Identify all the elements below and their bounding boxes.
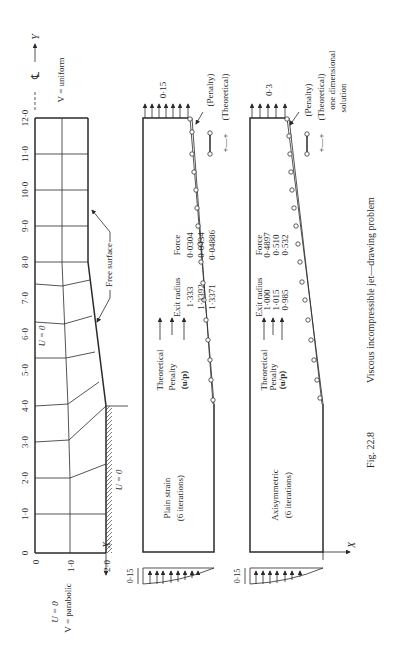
figure-22-8: 0 1·0 2·0 3·0 4·0 5·0 6·0 7·0 8·0 9·0 10… [0, 0, 400, 659]
y-tick-8: 8·0 [20, 256, 30, 268]
plain-strain-legend-theoretical-marker: +—+ [220, 133, 230, 152]
axisymmetric-inlet-profile: 0·15 [233, 568, 323, 584]
y-tick-10: 10·0 [20, 181, 30, 198]
free-surface-label: Free surface [104, 243, 114, 287]
plain-strain-force-0: 0·0304 [185, 232, 195, 258]
caption-label: Fig. 22.8 [365, 432, 376, 468]
plain-strain-method-1: Penalty [167, 363, 177, 390]
y-axis-label: Y [30, 33, 41, 40]
plain-strain-table: Exit radius Force Theoretical Penalty (u… [155, 230, 217, 391]
axisymmetric-exit-velocity: 0·3 [264, 84, 274, 96]
y-tick-4: 4·0 [20, 400, 30, 412]
plain-strain-header-force: Force [172, 235, 182, 256]
y-tick-12: 12·0 [20, 109, 30, 126]
wall-bc-label: U = 0 [114, 469, 124, 490]
plain-strain-method-2: (u/p) [179, 371, 189, 390]
y-tick-7: 7·0 [20, 292, 30, 304]
plain-strain-subtitle: (6 iterations) [175, 475, 185, 521]
plain-strain-legend-penalty: (Penalty) [205, 74, 215, 107]
x-tick-0: 0 [31, 559, 41, 564]
x-tick-2: 2·0 [102, 560, 112, 572]
x-axis-label-mesh: X [101, 541, 112, 549]
y-tick-labels: 0 1·0 2·0 3·0 4·0 5·0 6·0 7·0 8·0 9·0 10… [20, 109, 30, 555]
plain-strain-legend-theoretical: (Theoretical) [220, 74, 230, 121]
plain-strain-radius-2: 1·3371 [207, 284, 217, 310]
plain-strain-radius-0: 1·333 [185, 286, 195, 307]
centerline-symbol: ℄ [29, 72, 41, 80]
axisymmetric-table: Exit radius Force Theoretical Penalty (u… [254, 232, 290, 391]
plain-strain-title: Plain strain [162, 477, 172, 518]
inlet-bc-v-label: V = parabolic [63, 583, 73, 632]
plain-strain-method-0: Theoretical [155, 349, 165, 390]
axisymmetric-subtitle: (6 iterations) [283, 472, 293, 518]
y-tick-6: 6·0 [20, 328, 30, 340]
y-tick-0: 0 [20, 550, 30, 555]
y-tick-3: 3·0 [20, 436, 30, 448]
plain-strain-inlet-profile: 0·15 [126, 568, 214, 584]
plain-strain-panel: 0·15 (Penalty) +—+ (Theo [126, 74, 230, 585]
y-tick-5: 5·0 [20, 364, 30, 376]
axisymmetric-method-2: (u/p) [277, 371, 287, 390]
axisymmetric-inlet-label: 0·15 [233, 569, 242, 584]
caption-text: Viscous incompressible jet—drawing probl… [365, 197, 376, 383]
plain-strain-inlet-label: 0·15 [126, 569, 135, 584]
axisymmetric-legend-note-1: one dimensional [327, 50, 337, 110]
axisymmetric-legend-theoretical-marker: +—+ [316, 133, 326, 152]
axisymmetric-panel: 0·3 (Penalty) +—+ (Theoretical) [233, 50, 357, 584]
centerline-bc-label: U = 0 [37, 325, 47, 346]
y-tick-11: 11·0 [20, 145, 30, 162]
mesh-panel: 0 1·0 2·0 3·0 4·0 5·0 6·0 7·0 8·0 9·0 10… [20, 33, 128, 633]
plain-strain-radius-1: 1·3392 [196, 284, 206, 310]
plain-strain-exit-velocity: 0·15 [158, 81, 168, 98]
plain-strain-header-exit-radius: Exit radius [172, 277, 182, 317]
plain-strain-force-1: 0·0434 [196, 232, 206, 258]
axisymmetric-x-axis-label: X [346, 541, 357, 549]
inlet-bc-u-label: U = 0 [50, 601, 60, 623]
y-tick-9: 9·0 [20, 220, 30, 232]
x-tick-1: 1·0 [66, 560, 76, 572]
axisymmetric-legend-theoretical: (Theoretical) [316, 74, 326, 121]
figure-caption: Fig. 22.8 Viscous incompressible jet—dra… [365, 197, 376, 468]
y-tick-2: 2·0 [20, 472, 30, 484]
axisymmetric-legend-penalty: (Penalty) [303, 84, 313, 117]
plain-strain-force-2: 0·04886 [207, 230, 217, 260]
axisymmetric-title: Axisymmetric [270, 469, 280, 521]
y-tick-1: 1·0 [20, 508, 30, 520]
axisymmetric-radius-2: 0·985 [280, 289, 290, 310]
axisymmetric-legend-note-2: solution [338, 83, 348, 113]
axisymmetric-force-2: 0·532 [280, 235, 290, 256]
top-bc-label: V = uniform [56, 58, 66, 103]
